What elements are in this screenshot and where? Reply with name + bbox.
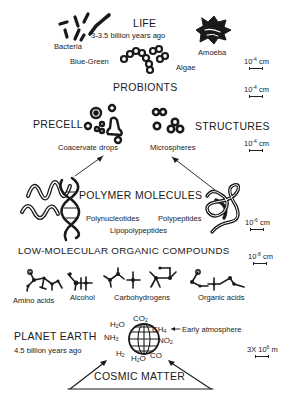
life-scale-bar: 10-4 cm [244, 56, 269, 70]
low-molecular-title: LOW-MOLECULAR ORGANIC COMPOUNDS [18, 245, 230, 256]
molecule-ch4: CH4 [152, 325, 166, 334]
cosmic-matter-title: COSMIC MATTER [94, 370, 185, 382]
algae-icon [121, 46, 168, 73]
polymer-title: POLYMER MOLECULES [79, 189, 202, 201]
earth-scale-bar: 3X 106 m [247, 344, 278, 358]
probionts-scale-bar: 10-4 cm [244, 84, 269, 98]
low-molecular-scale-bar: 10-8 cm [248, 251, 273, 265]
early-atmosphere-label: Early atmosphere [182, 325, 242, 334]
precell-title: PRECELL [33, 118, 83, 130]
microspheres-label: Microspheres [150, 143, 196, 152]
algae-label: Algae [176, 63, 195, 72]
alcohol-label: Alcohol [70, 293, 95, 302]
carbohydrogen-molecule-icon [104, 268, 176, 288]
amoeba-label: Amoeba [198, 48, 226, 57]
molecule-h2: H2 [116, 349, 125, 358]
amoeba-icon [196, 16, 231, 44]
polypeptides-label: Polypeptides [158, 214, 201, 223]
planet-earth-title: PLANET EARTH [14, 330, 97, 342]
molecule-nh3: NH3 [104, 333, 118, 342]
amino-acids-label: Amino acids [13, 296, 54, 305]
probionts-title: PROBIONTS [113, 81, 178, 93]
molecule-no2: NO2 [158, 336, 173, 345]
molecule-h2o-top: H2O [110, 320, 125, 329]
structures-title: STRUCTURES [195, 120, 270, 132]
coacervate-drops-icon [85, 105, 122, 143]
blue-green-label: Blue-Green [70, 57, 109, 66]
life-title: LIFE [133, 17, 156, 29]
polymer-scale-bar: 10-6 cm [245, 217, 270, 231]
lipopolypeptides-label: Lipopolypeptides [110, 226, 167, 235]
arrow-icon [75, 156, 215, 190]
carbohydrogens-label: Carbohydrogens [114, 293, 170, 302]
molecule-h2o-bottom: H2O [131, 354, 146, 363]
molecule-co2: CO2 [133, 314, 148, 323]
alcohol-molecule-icon [68, 274, 92, 290]
polynucleotides-label: Polynucleotides [86, 214, 139, 223]
microspheres-icon [153, 109, 183, 132]
coacervate-label: Coacervate drops [58, 143, 118, 152]
precell-scale-bar: 10-4 cm [244, 138, 269, 152]
planet-earth-age: 4.5 billion years ago [14, 346, 82, 355]
life-age: 3-3.5 billion years ago [91, 31, 165, 40]
organic-acids-label: Organic acids [198, 293, 244, 302]
molecule-co: CO [150, 351, 162, 360]
bacteria-label: Bacteria [54, 42, 82, 51]
